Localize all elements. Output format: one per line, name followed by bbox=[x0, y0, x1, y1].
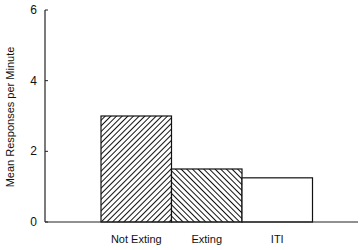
x-category-label: ITI bbox=[271, 233, 284, 245]
bar-not-exting bbox=[101, 116, 172, 222]
y-tick-label: 4 bbox=[30, 74, 37, 88]
y-axis-title: Mean Responses per Minute bbox=[4, 47, 16, 188]
y-tick-label: 0 bbox=[30, 215, 37, 229]
bar-iti bbox=[242, 178, 313, 222]
x-category-label: Not Exting bbox=[111, 233, 162, 245]
y-tick-label: 2 bbox=[30, 144, 37, 158]
bar-exting bbox=[172, 169, 243, 222]
x-category-label: Exting bbox=[191, 233, 222, 245]
bars bbox=[101, 116, 313, 222]
bar-chart: Mean Responses per Minute 0246 Not Extin… bbox=[0, 0, 360, 250]
category-labels: Not ExtingExtingITI bbox=[111, 233, 284, 245]
y-tick-label: 6 bbox=[30, 3, 37, 17]
